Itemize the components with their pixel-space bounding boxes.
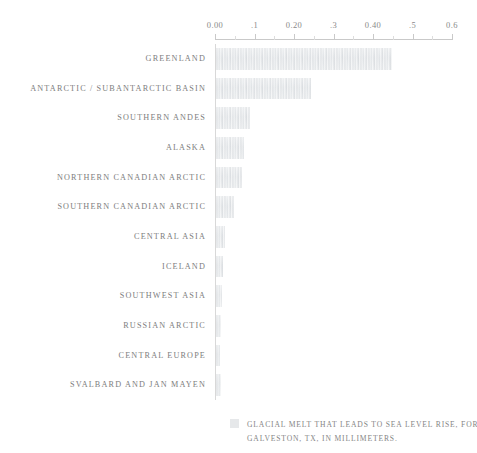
category-label: CENTRAL EUROPE — [0, 351, 206, 361]
x-tick-label-12: 0.6 — [446, 20, 458, 30]
x-tick-label-10: .5 — [409, 20, 416, 30]
bar[interactable] — [216, 256, 223, 277]
x-tick-label-8: 0.40 — [365, 20, 381, 30]
x-tick-12 — [452, 34, 453, 40]
bar-row[interactable] — [215, 163, 452, 193]
x-tick-label-6: .3 — [330, 20, 337, 30]
legend-caption-line-1: GLACIAL MELT THAT LEADS TO SEA LEVEL RIS… — [247, 418, 469, 432]
bar[interactable] — [216, 285, 222, 306]
bar-row[interactable] — [215, 370, 452, 400]
x-tick-label-0: 0.00 — [207, 20, 223, 30]
x-tick-label-4: 0.20 — [286, 20, 302, 30]
bar-row[interactable] — [215, 44, 452, 74]
bar[interactable] — [216, 107, 250, 128]
x-tick-11 — [432, 36, 433, 40]
plot-area — [215, 44, 452, 400]
x-tick-5 — [314, 36, 315, 40]
bar-row[interactable] — [215, 341, 452, 371]
x-axis-tick-labels: 0.00.10.20.30.40.50.6 — [215, 20, 452, 34]
category-axis-labels: GREENLANDANTARCTIC / SUBANTARCTIC BASINS… — [0, 44, 206, 400]
legend-caption: GLACIAL MELT THAT LEADS TO SEA LEVEL RIS… — [247, 418, 469, 445]
category-label: SOUTHERN ANDES — [0, 113, 206, 123]
x-tick-label-2: .1 — [251, 20, 258, 30]
category-label: CENTRAL ASIA — [0, 232, 206, 242]
bar[interactable] — [216, 78, 311, 99]
bar-row[interactable] — [215, 281, 452, 311]
category-label: ICELAND — [0, 262, 206, 272]
category-label: ALASKA — [0, 143, 206, 153]
x-tick-2 — [255, 34, 256, 40]
category-label: ANTARCTIC / SUBANTARCTIC BASIN — [0, 84, 206, 94]
category-label: SVALBARD AND JAN MAYEN — [0, 380, 206, 390]
bar[interactable] — [216, 137, 244, 158]
bar[interactable] — [216, 167, 242, 188]
bar-row[interactable] — [215, 192, 452, 222]
bar-row[interactable] — [215, 74, 452, 104]
legend-caption-line-2: GALVESTON, TX, IN MILLIMETERS. — [247, 432, 469, 446]
x-tick-1 — [235, 36, 236, 40]
bar-row[interactable] — [215, 311, 452, 341]
bar[interactable] — [216, 196, 234, 217]
x-tick-0 — [215, 34, 216, 40]
x-tick-8 — [373, 34, 374, 40]
bar[interactable] — [216, 374, 221, 395]
x-tick-3 — [274, 36, 275, 40]
bar-row[interactable] — [215, 252, 452, 282]
category-label: GREENLAND — [0, 54, 206, 64]
x-tick-6 — [334, 34, 335, 40]
x-tick-7 — [353, 36, 354, 40]
bar-row[interactable] — [215, 133, 452, 163]
x-tick-4 — [294, 34, 295, 40]
legend-swatch-icon — [230, 419, 239, 428]
bar[interactable] — [216, 48, 392, 69]
bar[interactable] — [216, 226, 225, 247]
bar[interactable] — [216, 345, 220, 366]
x-tick-10 — [413, 34, 414, 40]
category-label: NORTHERN CANADIAN ARCTIC — [0, 173, 206, 183]
bar[interactable] — [216, 315, 221, 336]
category-label: SOUTHWEST ASIA — [0, 291, 206, 301]
bar-row[interactable] — [215, 222, 452, 252]
category-label: RUSSIAN ARCTIC — [0, 321, 206, 331]
x-tick-9 — [393, 36, 394, 40]
glacier-melt-bar-chart: 0.00.10.20.30.40.50.6 GREENLANDANTARCTIC… — [0, 0, 477, 453]
category-label: SOUTHERN CANADIAN ARCTIC — [0, 202, 206, 212]
bar-row[interactable] — [215, 103, 452, 133]
